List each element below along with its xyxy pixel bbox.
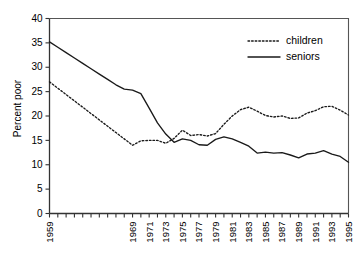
y-tick-label: 20 (31, 110, 43, 121)
y-tick-label: 30 (31, 61, 43, 72)
series-line-children (50, 82, 349, 145)
poverty-rate-line-chart: Percent poor 0510152025303540 1959196919… (0, 0, 361, 259)
chart-canvas: 0510152025303540 19591969197119731975197… (0, 0, 361, 259)
y-tick-label: 0 (37, 208, 43, 219)
x-tick-label: 1973 (160, 222, 171, 243)
x-tick-label: 1985 (260, 222, 271, 243)
legend-label-seniors: seniors (286, 50, 320, 62)
x-tick-label: 1989 (293, 222, 304, 243)
x-tick-label: 1971 (144, 222, 155, 243)
x-tick-label: 1981 (227, 222, 238, 243)
x-tick-label: 1991 (310, 222, 321, 243)
y-tick-label: 15 (31, 135, 43, 146)
legend-label-children: children (286, 34, 323, 46)
x-tick-label: 1993 (326, 222, 337, 243)
x-tick-label: 1987 (276, 222, 287, 243)
plot-frame (50, 19, 349, 214)
x-tick-label: 1983 (243, 221, 254, 242)
x-tick-label: 1979 (210, 222, 221, 243)
x-tick-label: 1977 (193, 222, 204, 243)
y-tick-label: 10 (31, 159, 43, 170)
x-axis-ticks: 1959196919711973197519771979198119831985… (44, 214, 354, 243)
y-axis-ticks: 0510152025303540 (31, 13, 49, 219)
y-tick-label: 35 (31, 37, 43, 48)
y-tick-label: 25 (31, 86, 43, 97)
chart-legend: childrenseniors (248, 34, 323, 62)
x-tick-label: 1975 (177, 222, 188, 243)
x-tick-label: 1959 (44, 222, 55, 243)
x-tick-label: 1995 (343, 222, 354, 243)
y-tick-label: 40 (31, 13, 43, 24)
x-tick-label: 1969 (127, 222, 138, 243)
y-tick-label: 5 (37, 183, 43, 194)
